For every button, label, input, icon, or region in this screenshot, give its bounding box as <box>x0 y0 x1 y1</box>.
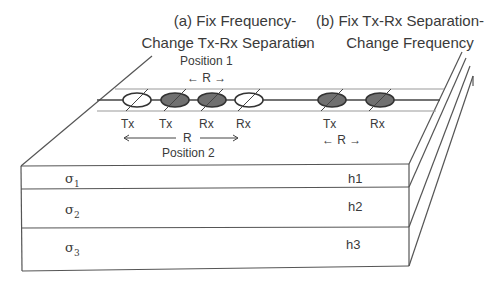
layer2-conductivity: σ2 <box>65 203 80 220</box>
layer1-conductivity: σ1 <box>65 172 80 189</box>
position1-label: Position 1 <box>180 55 233 67</box>
panel-b-title-line1: (b) Fix Tx-Rx Separation- <box>310 13 490 28</box>
title-separator-dash: – <box>298 36 306 51</box>
panel-b-title-line2: Change Frequency <box>330 35 490 50</box>
layer3-thickness: h3 <box>346 238 360 251</box>
panel-a-title-line1: (a) Fix Frequency- <box>150 13 320 28</box>
position2-label: Position 2 <box>162 147 215 159</box>
panel-b-separation: ← R → <box>322 134 361 146</box>
layer-boundary-2 <box>21 227 409 228</box>
layer-bottom <box>22 266 409 271</box>
sensor-label-rx-pos1: Rx <box>199 118 214 130</box>
sensor-label-rx-pos2: Rx <box>236 118 251 130</box>
position2-separation: R <box>183 132 192 144</box>
surface-front-edge <box>21 164 409 166</box>
sensor-label-tx-pos1: Tx <box>159 118 172 130</box>
front-left-edge <box>21 166 22 271</box>
sensor-label-rx-b: Rx <box>370 118 385 130</box>
layer2-thickness: h2 <box>348 200 362 213</box>
layer3-conductivity: σ3 <box>65 241 80 258</box>
layer1-thickness: h1 <box>348 172 362 185</box>
sensor-label-tx-b: Tx <box>323 118 336 130</box>
position1-separation: ← R → <box>187 72 226 84</box>
sensor-label-tx-pos2: Tx <box>121 118 134 130</box>
